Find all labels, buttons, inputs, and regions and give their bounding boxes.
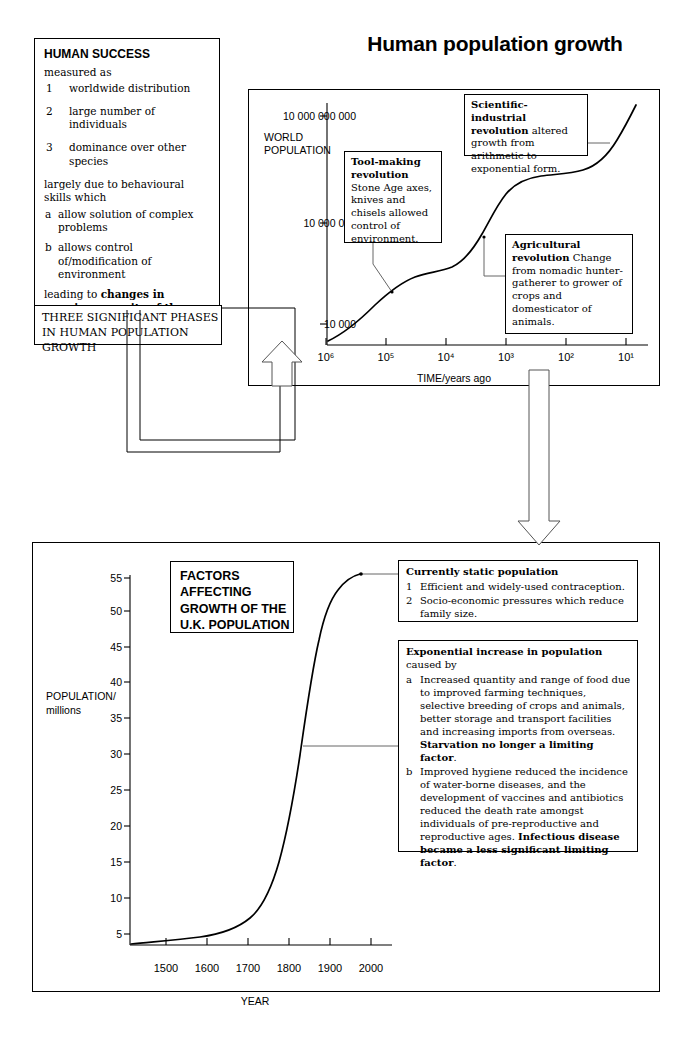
callout-heading-bold: Exponential increase in population bbox=[406, 646, 602, 657]
list-item: aallow solution of complex problems bbox=[44, 208, 211, 234]
callout-scientific-industrial-revolution: Scientific-industrial revolution altered… bbox=[464, 94, 588, 156]
bottom-chart-ytick-15: 15 bbox=[98, 856, 122, 868]
callout-list: a Increased quantity and range of food d… bbox=[406, 673, 631, 869]
top-chart-ytick-1: 10 000 000 000 bbox=[256, 110, 356, 122]
callout-currently-static-population: Currently static population 1Efficient a… bbox=[398, 560, 638, 622]
bottom-chart-ytick-25: 25 bbox=[98, 784, 122, 796]
human-success-panel: HUMAN SUCCESS measured as 1worldwide dis… bbox=[34, 38, 220, 310]
list-item: 2large number of individuals bbox=[44, 105, 211, 133]
callout-tool-making-revolution: Tool-making revolution Stone Age axes, k… bbox=[344, 151, 442, 243]
callout-heading: Exponential increase in population cause… bbox=[406, 646, 631, 672]
list-marker: 1 bbox=[46, 82, 53, 96]
bottom-chart-xtick-1500: 1500 bbox=[145, 962, 187, 974]
list-item: 2Socio-economic pressures which reduce f… bbox=[406, 594, 631, 620]
callout-heading-rest: caused by bbox=[406, 659, 457, 670]
top-chart-ytick-3: 10 000 bbox=[256, 318, 356, 330]
callout-heading: Scientific-industrial revolution bbox=[471, 99, 529, 136]
human-success-lettered-list: aallow solution of complex problems ball… bbox=[44, 208, 211, 281]
top-chart-xtick-2: 10⁵ bbox=[366, 351, 406, 363]
bottom-chart-xtick-1700: 1700 bbox=[227, 962, 269, 974]
list-text: Efficient and widely-used contraception. bbox=[420, 581, 625, 592]
list-marker: 3 bbox=[46, 141, 53, 155]
list-item: 1Efficient and widely-used contraception… bbox=[406, 580, 631, 593]
list-item: 1worldwide distribution bbox=[44, 82, 211, 96]
top-chart-xtick-4: 10³ bbox=[486, 351, 526, 363]
list-text: Socio-economic pressures which reduce fa… bbox=[420, 595, 624, 619]
bottom-chart-xtick-1800: 1800 bbox=[268, 962, 310, 974]
bottom-chart-xtick-1600: 1600 bbox=[186, 962, 228, 974]
list-marker: 1 bbox=[406, 580, 412, 593]
top-chart-y-axis-title: WORLD POPULATION bbox=[264, 131, 350, 157]
callout-body: Stone Age axes, knives and chisels allow… bbox=[351, 182, 432, 244]
page-title: Human population growth bbox=[330, 32, 660, 56]
human-success-numbered-list: 1worldwide distribution 2large number of… bbox=[44, 82, 211, 169]
human-success-heading: HUMAN SUCCESS bbox=[44, 47, 211, 63]
bottom-chart-ytick-5: 5 bbox=[98, 928, 122, 940]
top-chart-xtick-6: 10¹ bbox=[606, 351, 646, 363]
list-item: a Increased quantity and range of food d… bbox=[406, 673, 631, 764]
list-text: allows control of/modification of enviro… bbox=[58, 241, 151, 279]
list-item: ballows control of/modification of envir… bbox=[44, 241, 211, 280]
callout-agricultural-revolution: Agricultural revolution Change from noma… bbox=[505, 234, 633, 334]
connector-loop-return bbox=[140, 386, 295, 440]
bottom-chart-ytick-20: 20 bbox=[98, 820, 122, 832]
list-text-bold-suffix: . bbox=[453, 752, 456, 763]
top-chart-xtick-1: 10⁶ bbox=[306, 351, 346, 363]
bottom-chart-ytick-35: 35 bbox=[98, 712, 122, 724]
bottom-chart-ytick-10: 10 bbox=[98, 892, 122, 904]
top-chart-xtick-5: 10² bbox=[546, 351, 586, 363]
top-chart-x-axis-title: TIME/years ago bbox=[248, 372, 660, 384]
list-text: allow solution of complex problems bbox=[58, 208, 193, 233]
bottom-chart-y-axis-title: POPULATION/ millions bbox=[46, 690, 146, 717]
list-marker: a bbox=[45, 208, 51, 221]
down-arrow-icon bbox=[518, 370, 560, 545]
top-chart-ytick-2: 10 000 000 bbox=[256, 217, 356, 229]
list-text-bold-suffix: . bbox=[453, 857, 456, 868]
bottom-chart-x-axis-title: YEAR bbox=[140, 995, 370, 1007]
bottom-chart-ytick-55: 55 bbox=[98, 572, 122, 584]
top-chart-xtick-3: 10⁴ bbox=[426, 351, 466, 363]
callout-heading: Tool-making revolution bbox=[351, 156, 421, 180]
list-text: large number of individuals bbox=[69, 105, 155, 131]
list-item: 3dominance over other species bbox=[44, 141, 211, 169]
list-text-bold: Starvation no longer a limiting factor bbox=[420, 739, 594, 763]
bottom-chart-xtick-1900: 1900 bbox=[309, 962, 351, 974]
callout-body: Change from nomadic hunter-gatherer to g… bbox=[512, 252, 623, 327]
list-text: Increased quantity and range of food due… bbox=[420, 674, 630, 737]
bottom-chart-ytick-30: 30 bbox=[98, 748, 122, 760]
bottom-chart-ytick-45: 45 bbox=[98, 641, 122, 653]
factors-affecting-title-box: FACTORS AFFECTING GROWTH OF THE U.K. POP… bbox=[170, 561, 294, 633]
list-text: worldwide distribution bbox=[69, 82, 190, 94]
human-success-middle: largely due to behavioural skills which bbox=[44, 178, 211, 204]
callout-list: 1Efficient and widely-used contraception… bbox=[406, 580, 631, 620]
bottom-chart-xtick-2000: 2000 bbox=[350, 962, 392, 974]
list-item: b Improved hygiene reduced the incidence… bbox=[406, 765, 631, 869]
bottom-chart-ytick-40: 40 bbox=[98, 676, 122, 688]
callout-exponential-increase: Exponential increase in population cause… bbox=[398, 640, 638, 852]
list-marker: 2 bbox=[46, 105, 53, 119]
list-marker: 2 bbox=[406, 594, 412, 607]
list-text: dominance over other species bbox=[69, 141, 186, 167]
conclusion-prefix: leading to bbox=[44, 288, 101, 300]
list-marker: b bbox=[45, 241, 52, 254]
list-marker: a bbox=[406, 673, 412, 686]
three-phases-box: THREE SIGNIFICANT PHASES IN HUMAN POPULA… bbox=[34, 305, 222, 345]
human-success-lead: measured as bbox=[44, 66, 211, 80]
bottom-chart-ytick-50: 50 bbox=[98, 605, 122, 617]
callout-heading: Currently static population bbox=[406, 566, 631, 579]
list-marker: b bbox=[406, 765, 412, 778]
